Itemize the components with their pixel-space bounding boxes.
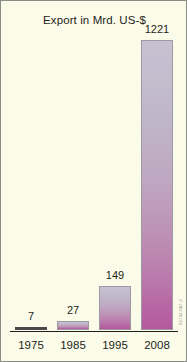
bar-2008 bbox=[141, 40, 173, 330]
bar-value-1985: 27 bbox=[54, 304, 92, 316]
bar-label-1975: 1975 bbox=[12, 339, 50, 351]
bar-label-1995: 1995 bbox=[96, 339, 134, 351]
bar-1985 bbox=[57, 321, 89, 330]
bar-label-2008: 2008 bbox=[138, 339, 176, 351]
axis-baseline bbox=[10, 331, 178, 332]
bar-label-1985: 1985 bbox=[54, 339, 92, 351]
bar-1995 bbox=[99, 286, 131, 330]
bar-value-2008: 1221 bbox=[138, 23, 176, 35]
plot-area: 7 1975 27 1985 149 1995 1221 2008 bbox=[1, 1, 187, 362]
bar-1975 bbox=[15, 327, 47, 330]
bar-value-1995: 149 bbox=[96, 269, 134, 281]
bar-value-1975: 7 bbox=[12, 310, 50, 322]
chart-frame: Export in Mrd. US-$ 7 1975 27 1985 149 1… bbox=[0, 0, 187, 362]
source-watermark: 52734-087-2 bbox=[178, 299, 183, 325]
